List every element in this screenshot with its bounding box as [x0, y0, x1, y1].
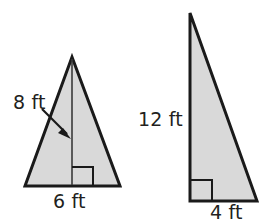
dimension-label-right-height: 12 ft [138, 110, 183, 129]
dimension-label-left-height: 8 ft [13, 93, 46, 112]
right-triangle-shape [190, 13, 257, 201]
dimension-label-left-base: 6 ft [53, 192, 86, 211]
geometry-figure: 8 ft 6 ft 12 ft 4 ft [0, 0, 273, 224]
dimension-label-right-base: 4 ft [210, 203, 243, 222]
